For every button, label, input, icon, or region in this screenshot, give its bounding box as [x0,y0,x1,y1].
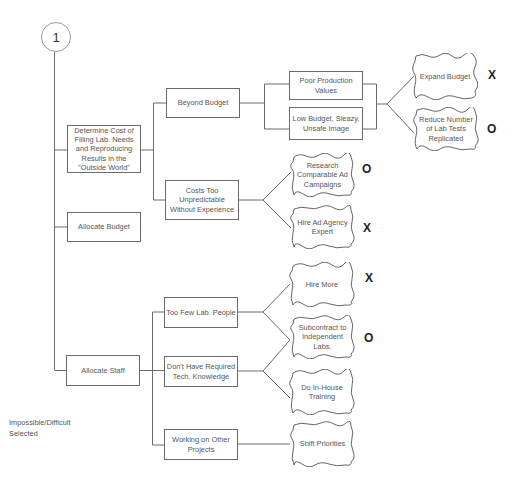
node-label: Working on Other Projects [165,435,237,454]
mark-o-reduce-lab-tests: O [487,122,496,136]
node-label: Low Budget, Sleazy, Unsafe Image [290,114,362,133]
mark-o-subcontract-labs: O [364,331,373,345]
node-label: Poor Production Values [290,76,362,95]
solution-label: Hire More [303,280,341,289]
node-poor-production-values: Poor Production Values [289,71,363,100]
solution-label: Reduce Number of Lab Tests Replicated [413,115,479,143]
solution-label: Subcontract to Independent Labs. [290,323,355,351]
node-label: Too Few Lab. People [166,308,235,317]
mark-o-research-ad-campaigns: O [362,162,371,176]
step-number: 1 [52,30,59,45]
solution-label: Research Comparable Ad Campaigns [290,161,355,189]
node-allocate-budget: Allocate Budget [67,212,141,242]
node-label: Beyond Budget [178,98,229,107]
solution-label: Hire Ad Agency Expert [290,218,355,237]
solution-label: Expand Budget [417,72,474,81]
solution-hire-ad-agency: Hire Ad Agency Expert [290,205,355,249]
legend-impossible-difficult: Impossible/Difficult [9,417,70,428]
node-low-budget-image: Low Budget, Sleazy, Unsafe Image [289,107,363,140]
node-label: Costs Too Unpredictable Without Experien… [166,186,238,214]
node-label: Allocate Staff [81,366,124,375]
solution-label: Shift Priorities [297,439,349,448]
node-working-on-other-projects: Working on Other Projects [164,429,238,460]
solution-subcontract-labs: Subcontract to Independent Labs. [290,315,355,359]
solution-label: Do In-House Training [289,383,355,402]
node-too-few-lab-people: Too Few Lab. People [164,297,238,328]
node-label: Don't Have Required Tech. Knowledge [165,362,237,381]
mark-x-expand-budget: X [488,68,496,82]
mark-x-hire-ad-agency: X [363,221,371,235]
step-number-circle: 1 [41,22,71,52]
solution-in-house-training: Do In-House Training [289,369,355,415]
node-costs-too-unpredictable: Costs Too Unpredictable Without Experien… [165,180,239,220]
node-label: Determine Cost of Filling Lab. Needs and… [68,126,140,172]
tree-diagram: 1 Determine Cost of Filling Lab. Needs a… [0,0,521,494]
node-beyond-budget: Beyond Budget [166,88,240,118]
solution-shift-priorities: Shift Priorities [290,421,355,467]
node-allocate-staff: Allocate Staff [66,355,140,386]
solution-research-ad-campaigns: Research Comparable Ad Campaigns [290,153,355,197]
solution-hire-more: Hire More [289,262,355,307]
node-dont-have-tech-knowledge: Don't Have Required Tech. Knowledge [164,356,238,387]
legend: Impossible/Difficult Selected [9,417,70,439]
solution-reduce-lab-tests: Reduce Number of Lab Tests Replicated [413,107,479,151]
mark-x-hire-more: X [365,271,373,285]
node-determine-cost: Determine Cost of Filling Lab. Needs and… [67,125,141,173]
node-label: Allocate Budget [78,222,130,231]
legend-selected: Selected [9,428,70,439]
solution-expand-budget: Expand Budget [412,53,478,100]
